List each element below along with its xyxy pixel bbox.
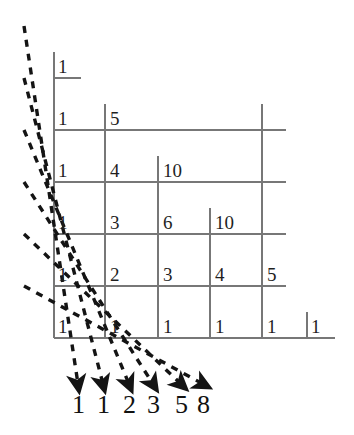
diagonal-sum-value: 3 <box>147 392 160 418</box>
diagonal-dashed-line-1 <box>24 26 78 384</box>
cell-value: 1 <box>267 317 277 336</box>
cell-value: 1 <box>58 213 68 232</box>
diagonal-dashed-line-4 <box>24 182 153 384</box>
diagonal-sum-value: 1 <box>72 392 85 418</box>
diagonal-sum-value: 1 <box>97 392 110 418</box>
cell-value: 3 <box>163 265 173 284</box>
cell-value: 4 <box>110 161 120 180</box>
diagonal-sum-value: 5 <box>175 392 188 418</box>
cell-value: 1 <box>58 109 68 128</box>
cell-value: 6 <box>163 213 173 232</box>
cell-value: 10 <box>215 213 234 232</box>
diagonal-dashed-lines-layer <box>0 0 354 435</box>
cell-value: 1 <box>311 317 321 336</box>
cell-value: 2 <box>110 265 120 284</box>
cell-value: 1 <box>58 317 68 336</box>
cell-value: 10 <box>163 161 182 180</box>
cell-value: 4 <box>215 265 225 284</box>
pascal-fibonacci-figure: 11514101361012345111111 112358 <box>0 0 354 435</box>
cell-value: 1 <box>110 317 120 336</box>
cell-value: 1 <box>215 317 225 336</box>
diagonal-dashed-line-5 <box>24 234 181 384</box>
cell-value: 1 <box>58 57 68 76</box>
cell-value: 5 <box>267 265 277 284</box>
diagonal-sum-value: 2 <box>123 392 136 418</box>
cell-value: 3 <box>110 213 120 232</box>
cell-value: 1 <box>58 161 68 180</box>
cell-value: 5 <box>110 109 120 128</box>
cell-value: 1 <box>163 317 173 336</box>
cell-value: 1 <box>58 265 68 284</box>
diagonal-sum-value: 8 <box>197 392 210 418</box>
